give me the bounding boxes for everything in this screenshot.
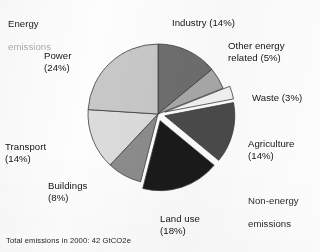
pie-chart-figure: Energy emissions Power (24%) Transport (… [0,0,320,252]
slice-label-other-energy-related: Other energy related (5%) [228,40,285,63]
slice-label-transport: Transport (14%) [5,141,46,164]
group-label-energy-line1: Energy [8,18,51,30]
slice-label-power: Power (24%) [44,50,71,73]
slice-label-industry: Industry (14%) [172,17,235,29]
group-label-non-energy-emissions: Non-energy emissions [248,183,299,229]
group-label-nonenergy-line2: emissions [248,218,291,229]
chart-footnote: Total emissions in 2000: 42 GtCO2e [6,236,131,245]
pie-slice-power[interactable] [88,44,158,114]
slice-label-waste: Waste (3%) [252,92,302,104]
slice-label-agriculture: Agriculture (14%) [248,138,294,161]
slice-label-land-use: Land use (18%) [160,213,200,236]
slice-label-buildings: Buildings (8%) [48,180,87,203]
group-label-nonenergy-line1: Non-energy [248,195,299,206]
